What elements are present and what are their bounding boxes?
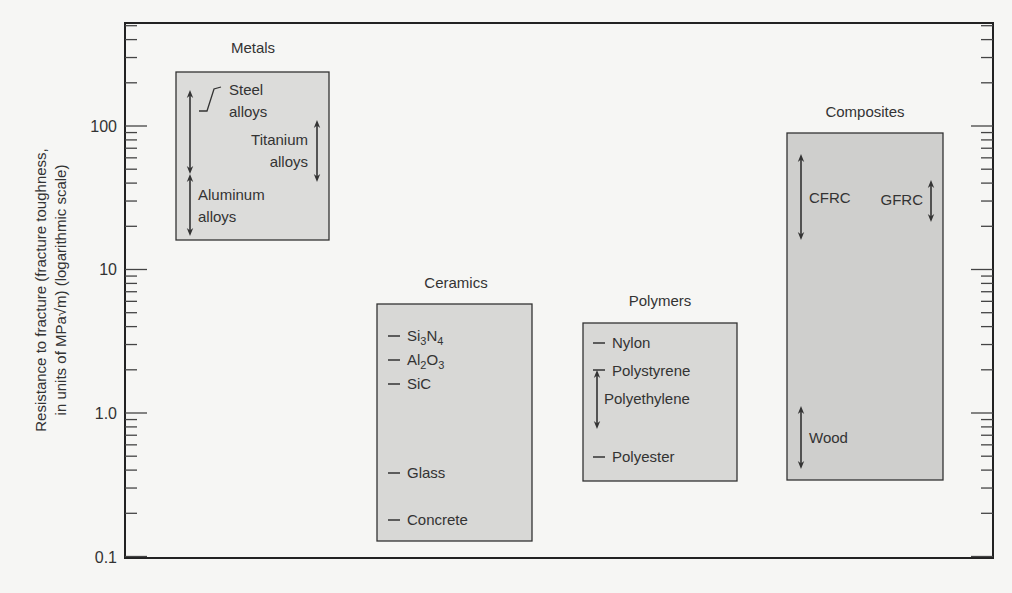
y-axis-label: Resistance to fracture (fracture toughne… xyxy=(32,148,69,431)
label-glass: Glass xyxy=(407,464,445,481)
label-titanium: Titanium xyxy=(251,131,308,148)
label-concrete: Concrete xyxy=(407,511,468,528)
category-title-polymers: Polymers xyxy=(629,292,692,309)
y-tick-100: 100 xyxy=(90,118,117,135)
label-steel-alloys: alloys xyxy=(229,103,267,120)
label-cfrc: CFRC xyxy=(809,189,851,206)
label-titanium-alloys: alloys xyxy=(270,153,308,170)
y-tick-1: 1.0 xyxy=(95,405,117,422)
category-ceramics: Ceramics Si3N4 Al2O3 SiC Glass Concrete xyxy=(377,274,532,541)
label-wood: Wood xyxy=(809,429,848,446)
category-title-metals: Metals xyxy=(231,39,275,56)
y-tick-labels: 100 10 1.0 0.1 xyxy=(90,118,117,566)
category-title-composites: Composites xyxy=(825,103,904,120)
y-axis-label-line2: in units of MPa√m) (logarithmic scale) xyxy=(52,165,69,416)
label-nylon: Nylon xyxy=(612,334,650,351)
range-box-composites xyxy=(787,133,943,480)
label-aluminum-alloys: alloys xyxy=(198,208,236,225)
y-axis-ticks-left xyxy=(125,26,147,557)
label-gfrc: GFRC xyxy=(881,191,924,208)
y-axis-ticks-right xyxy=(971,26,993,557)
category-polymers: Polymers Nylon Polystyrene Polyethylene … xyxy=(583,292,737,481)
label-polystyrene: Polystyrene xyxy=(612,362,690,379)
label-sic: SiC xyxy=(407,375,431,392)
label-polyester: Polyester xyxy=(612,448,675,465)
label-aluminum: Aluminum xyxy=(198,186,265,203)
label-steel: Steel xyxy=(229,81,263,98)
category-metals: Metals Steel alloys Titanium alloys Alum… xyxy=(176,39,329,240)
y-axis-label-line1: Resistance to fracture (fracture toughne… xyxy=(32,148,49,431)
y-tick-10: 10 xyxy=(99,261,117,278)
label-polyethylene: Polyethylene xyxy=(604,390,690,407)
fracture-toughness-chart: Resistance to fracture (fracture toughne… xyxy=(0,0,1012,593)
range-box-ceramics xyxy=(377,304,532,541)
category-composites: Composites CFRC GFRC Wood xyxy=(787,103,943,480)
y-tick-0-1: 0.1 xyxy=(95,549,117,566)
category-title-ceramics: Ceramics xyxy=(424,274,487,291)
